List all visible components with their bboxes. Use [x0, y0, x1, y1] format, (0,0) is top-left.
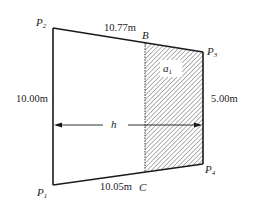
point-label-p3: P3 — [206, 45, 218, 59]
point-label-p2: P2 — [35, 16, 47, 30]
point-label-c: C — [139, 181, 147, 193]
point-label-p1: P1 — [36, 186, 47, 200]
dimension-top-edge: 10.77m — [104, 22, 136, 33]
point-label-p4: P4 — [204, 163, 216, 177]
dimension-bottom-edge: 10.05m — [100, 181, 132, 192]
arrowhead-left-icon — [54, 123, 62, 128]
trapezoid-diagram: P2 B P3 P4 C P1 10.77m 10.00m 5.00m 10.0… — [0, 0, 254, 208]
point-label-b: B — [142, 29, 149, 41]
dimension-right-edge: 5.00m — [211, 93, 238, 104]
distance-label-h: h — [111, 118, 117, 130]
dimension-left-edge: 10.00m — [16, 93, 48, 104]
